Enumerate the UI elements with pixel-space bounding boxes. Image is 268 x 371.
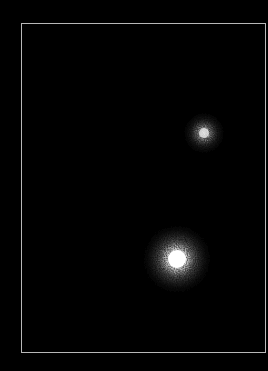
upper-star: [180, 109, 228, 157]
lower-star: [137, 219, 217, 299]
image-frame: [21, 23, 266, 353]
star-field: [22, 24, 266, 353]
